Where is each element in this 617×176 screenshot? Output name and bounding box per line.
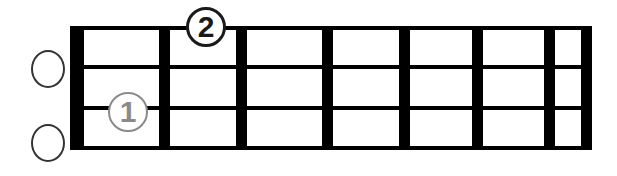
fret-bar-6 (544, 26, 555, 150)
chord-diagram-canvas: 1 2 (0, 0, 617, 176)
open-string-circle-string-4[interactable] (31, 124, 65, 162)
finger-marker-1[interactable]: 1 (108, 92, 148, 132)
fret-bar-4 (399, 26, 410, 150)
open-string-circle-string-1[interactable] (31, 50, 65, 88)
fret-bar-3 (322, 26, 333, 150)
finger-marker-2[interactable]: 2 (186, 7, 226, 47)
nut (70, 26, 84, 150)
fret-bar-5 (472, 26, 483, 150)
fret-bar-1 (159, 26, 170, 150)
fret-bar-7 (581, 26, 592, 150)
fret-bar-2 (236, 26, 247, 150)
fretboard (70, 26, 592, 150)
